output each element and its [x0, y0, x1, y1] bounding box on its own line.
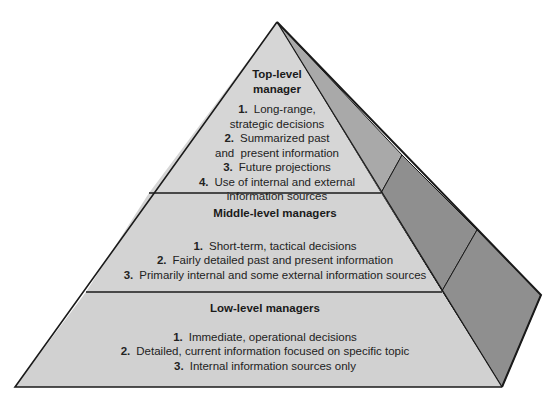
tier-title-line: Top-level	[177, 67, 377, 82]
tier-low-level: Low-level managers 1.Immediate, operatio…	[30, 301, 500, 373]
item-number: 3.	[174, 360, 184, 372]
item-text: strategic decisions	[177, 117, 377, 132]
tier-middle-level: Middle-level managers 1.Short-term, tact…	[100, 206, 450, 282]
item-text: Immediate, operational decisions	[189, 331, 357, 343]
item-text: Future projections	[239, 161, 331, 173]
item-number: 2.	[157, 254, 167, 266]
tier-title: Low-level managers	[30, 301, 500, 316]
tier-top-level: Top-level manager 1.Long-range, strategi…	[177, 67, 377, 204]
list-item: 2.Fairly detailed past and present infor…	[100, 253, 450, 268]
tier-title: Middle-level managers	[100, 206, 450, 221]
item-text: Detailed, current information focused on…	[136, 345, 409, 357]
item-text: Short-term, tactical decisions	[209, 240, 357, 252]
list-item: 1.Immediate, operational decisions	[30, 330, 500, 345]
item-text: information sources	[177, 189, 377, 204]
item-text: Summarized past	[240, 132, 329, 144]
list-item: 2.Detailed, current information focused …	[30, 344, 500, 359]
list-item: 2.Summarized past and present informatio…	[177, 131, 377, 160]
list-item: 3.Future projections	[177, 160, 377, 175]
list-item: 4.Use of internal and external informati…	[177, 175, 377, 204]
item-number: 1.	[238, 103, 248, 115]
list-item: 1.Short-term, tactical decisions	[100, 239, 450, 254]
list-item: 3.Primarily internal and some external i…	[100, 268, 450, 283]
item-text: and present information	[177, 146, 377, 161]
item-text: Internal information sources only	[190, 360, 356, 372]
list-item: 1.Long-range, strategic decisions	[177, 102, 377, 131]
item-number: 3.	[124, 269, 134, 281]
tier-title: Top-level manager	[177, 67, 377, 96]
item-text: Long-range,	[254, 103, 316, 115]
item-number: 2.	[121, 345, 131, 357]
item-text: Primarily internal and some external inf…	[139, 269, 426, 281]
item-number: 1.	[173, 331, 183, 343]
item-number: 2.	[224, 132, 234, 144]
tier-title-line: manager	[177, 82, 377, 97]
item-number: 4.	[199, 176, 209, 188]
item-text: Use of internal and external	[214, 176, 355, 188]
item-number: 3.	[223, 161, 233, 173]
item-number: 1.	[193, 240, 203, 252]
item-text: Fairly detailed past and present informa…	[173, 254, 394, 266]
list-item: 3.Internal information sources only	[30, 359, 500, 374]
